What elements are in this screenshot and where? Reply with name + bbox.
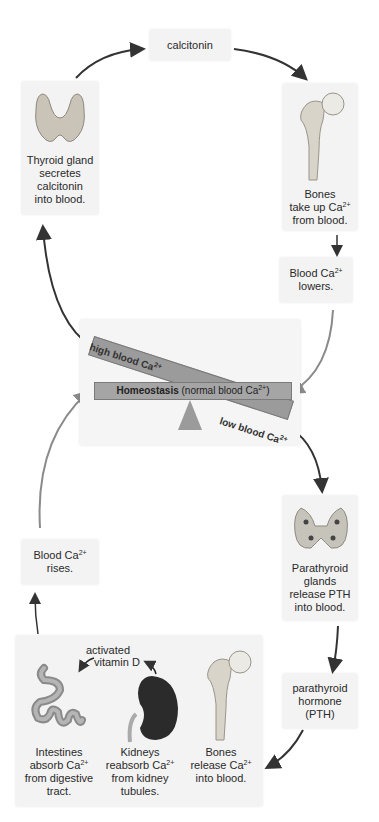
arrow-bottom-to-rises [35,595,38,634]
parathyroid-line3: release PTH [283,588,357,601]
intestines-caption: Intestines absorb Ca2+ from digestive tr… [20,746,98,798]
thyroid-line3: calcitonin [22,180,98,193]
bones-up-sup: 2+ [343,201,351,208]
arrow-thyroid-to-calcitonin [76,49,142,78]
parathyroid-line1: Parathyroid [283,562,357,575]
homeostasis-sup: 2+ [258,384,266,391]
rises-line1: Blood Ca [33,549,78,561]
thyroid-line2: secretes [22,167,98,180]
blood-lowers-box: Blood Ca2+ lowers. [280,258,352,302]
calcitonin-label: calcitonin [150,39,230,52]
homeostasis-bold: Homeostasis [116,385,178,396]
fulcrum-icon [176,400,204,430]
arrow-calcitonin-to-bones [234,49,305,78]
thyroid-box: Thyroid gland secretes calcitonin into b… [22,82,98,214]
parathyroid-line4: into blood. [283,601,357,614]
homeostasis-close: ) [266,385,269,396]
bones-release-caption: Bones release Ca2+ into blood. [182,746,260,785]
lowers-sup: 2+ [335,267,343,274]
pth-box: parathyroid hormone (PTH) [283,674,357,728]
thyroid-gland-icon [32,90,88,148]
parathyroid-line2: glands [283,575,357,588]
bones-up-line3: from blood. [283,214,357,227]
pth-line3: (PTH) [283,708,357,721]
calcitonin-box: calcitonin [150,30,230,60]
femur-bone-release-icon [200,646,256,742]
thyroid-line4: into blood. [22,193,98,206]
thyroid-line1: Thyroid gland [22,154,98,167]
intestines-icon [30,662,90,742]
bones-up-line2: take up Ca [289,201,342,213]
low-blood-label: low blood Ca2+ [218,414,289,448]
arrow-parathyroid-to-pth [333,626,338,670]
homeostasis-rest: (normal blood Ca [179,385,258,396]
blood-rises-box: Blood Ca2+ rises. [22,540,98,584]
bones-up-line1: Bones [283,188,357,201]
parathyroid-box: Parathyroid glands release PTH into bloo… [283,496,357,620]
bones-take-up-box: Bones take up Ca2+ from blood. [283,84,357,230]
pth-line2: hormone [283,695,357,708]
femur-bone-icon [293,90,349,182]
lowers-line2: lowers. [280,280,352,293]
homeostasis-bar: Homeostasis (normal blood Ca2+) [94,382,292,400]
rises-sup: 2+ [79,549,87,556]
pth-line1: parathyroid [283,682,357,695]
parathyroid-gland-icon [291,504,351,556]
rises-line2: rises. [22,562,98,575]
lowers-line1: Blood Ca [289,267,334,279]
arrow-pth-to-bones-release [268,730,303,767]
kidneys-caption: Kidneys reabsorb Ca2+ from kidney tubule… [100,746,180,798]
homeostasis-panel: Homeostasis (normal blood Ca2+) high blo… [80,320,300,445]
bottom-panel: activated vitamin D Intestines absorb Ca… [16,636,262,806]
kidney-icon [122,672,182,744]
